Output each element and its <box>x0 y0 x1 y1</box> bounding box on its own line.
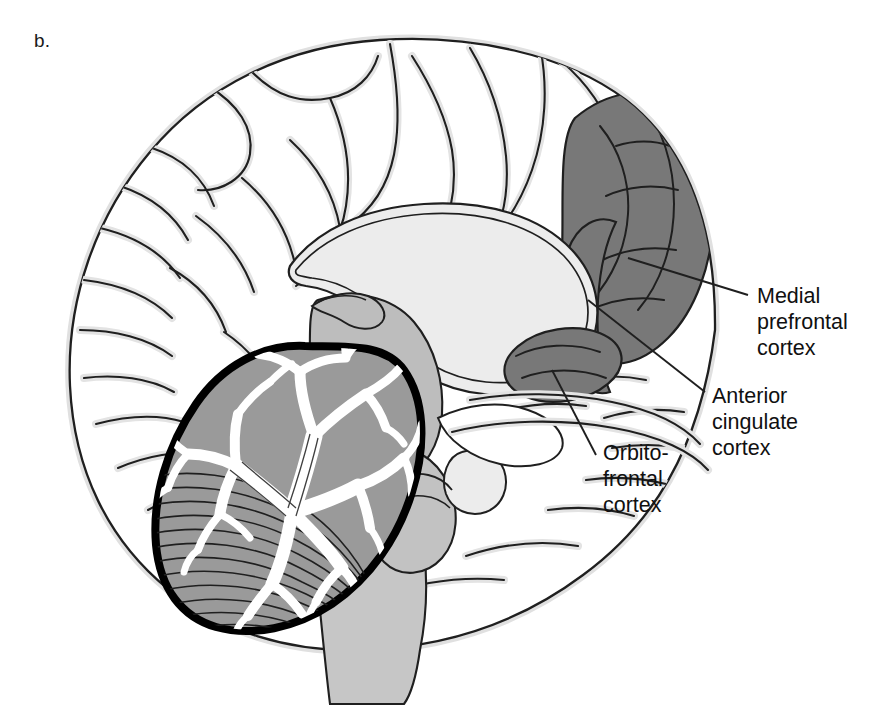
label-medial-prefrontal-cortex: Medial prefrontal cortex <box>757 283 848 361</box>
brain-sagittal-figure: b. <box>0 0 879 710</box>
label-orbitofrontal-cortex: Orbito- frontal cortex <box>603 440 669 518</box>
brain-diagram-svg <box>0 0 879 710</box>
label-anterior-cingulate-cortex: Anterior cingulate cortex <box>712 383 798 461</box>
